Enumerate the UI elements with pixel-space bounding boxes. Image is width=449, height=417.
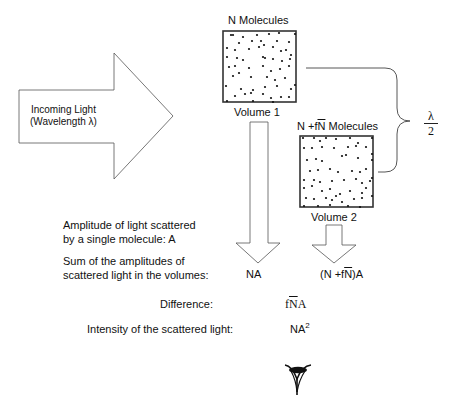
volume1-scatter-arrow	[236, 122, 280, 263]
molecule-dot	[369, 180, 371, 182]
volume2-sum-prefix: (N +f	[320, 268, 344, 280]
molecule-dot	[365, 146, 367, 148]
molecule-dot	[313, 198, 315, 200]
molecule-dot	[240, 88, 242, 90]
intensity-base: NA	[290, 323, 305, 335]
molecule-dot	[242, 59, 244, 61]
molecule-dot	[303, 187, 305, 189]
molecule-dot	[238, 72, 240, 74]
molecule-dot	[357, 157, 359, 159]
molecule-dot	[226, 47, 228, 49]
fraction-denominator: 2	[424, 125, 438, 137]
molecule-dot	[270, 97, 272, 99]
molecule-dot	[251, 40, 253, 42]
molecule-dot	[321, 160, 323, 162]
molecule-dot	[351, 170, 353, 172]
molecule-dot	[276, 85, 278, 87]
molecule-dot	[230, 34, 232, 36]
molecule-dot	[371, 195, 373, 197]
molecule-dot	[250, 76, 252, 78]
molecule-dot	[232, 75, 234, 77]
incoming-light-line2: (Wavelength λ)	[30, 116, 97, 128]
molecule-dot	[290, 54, 292, 56]
difference-suffix: A	[298, 297, 307, 311]
molecule-dot	[289, 58, 291, 60]
volume2-title-prefix: N +f	[297, 120, 317, 132]
molecule-dot	[290, 88, 292, 90]
molecule-dot	[279, 68, 281, 70]
sum-label: Sum of the amplitudes of scattered light…	[63, 254, 209, 282]
volume2-sum-value: (N +fN)A	[320, 268, 363, 281]
volume2-title: N +fN Molecules	[297, 120, 378, 133]
molecule-dot	[234, 65, 236, 67]
molecule-dot	[281, 60, 283, 62]
molecule-dot	[331, 180, 333, 182]
molecule-dot	[329, 204, 331, 206]
molecule-dot	[303, 179, 305, 181]
molecule-dot	[347, 205, 349, 207]
molecule-dot	[365, 187, 367, 189]
molecule-dot	[361, 192, 363, 194]
molecule-dot	[321, 190, 323, 192]
molecule-dot	[333, 147, 335, 149]
molecule-dot	[232, 34, 234, 36]
volume2-title-suffix: Molecules	[325, 120, 378, 132]
molecule-dot	[335, 138, 337, 140]
eye-icon	[285, 365, 311, 395]
molecule-dot	[335, 195, 337, 197]
difference-value: fNA	[285, 298, 306, 311]
molecule-dot	[349, 137, 351, 139]
molecule-dot	[319, 181, 321, 183]
molecule-dot	[371, 137, 373, 139]
volume1-title: N Molecules	[228, 14, 289, 27]
molecule-dot	[258, 46, 260, 48]
molecule-dot	[276, 40, 278, 42]
molecule-dot	[288, 41, 290, 43]
amplitude-line1: Amplitude of light scattered	[63, 218, 196, 232]
molecule-dot	[365, 168, 367, 170]
molecule-dot	[302, 137, 304, 139]
molecule-dot	[234, 49, 236, 51]
molecule-dot	[234, 95, 236, 97]
molecule-dot	[357, 142, 359, 144]
molecule-dot	[248, 48, 250, 50]
volume2-sum-suffix: )A	[352, 268, 363, 280]
intensity-exponent: 2	[305, 321, 309, 330]
molecule-dot	[272, 58, 274, 60]
molecule-dot	[303, 147, 305, 149]
molecule-dot	[347, 146, 349, 148]
molecule-dot	[260, 40, 262, 42]
molecule-dot	[288, 65, 290, 67]
molecule-dot	[321, 146, 323, 148]
molecule-dot	[294, 84, 296, 86]
molecule-dot	[272, 46, 274, 48]
molecule-dot	[341, 155, 343, 157]
molecule-dot	[262, 56, 264, 58]
molecule-dot	[353, 198, 355, 200]
molecule-dot	[262, 93, 264, 95]
molecule-dot	[268, 33, 270, 35]
sum-line2: scattered light in the volumes:	[63, 268, 209, 282]
molecule-dot	[228, 66, 230, 68]
difference-label: Difference:	[160, 298, 213, 311]
molecule-dot	[359, 206, 361, 208]
molecule-dot	[272, 101, 274, 103]
molecule-dot	[371, 159, 373, 161]
molecule-dot	[349, 190, 351, 192]
molecule-dot	[315, 158, 317, 160]
diagram-canvas	[0, 0, 449, 417]
fraction-numerator: λ	[424, 110, 438, 122]
molecule-dot	[288, 96, 290, 98]
volume2-label: Volume 2	[311, 211, 357, 224]
volume2-scatter-arrow	[312, 225, 356, 263]
molecule-dot	[361, 197, 363, 199]
molecule-dot	[294, 33, 296, 35]
molecule-dot	[339, 193, 341, 195]
molecule-dot	[270, 70, 272, 72]
molecule-dot	[278, 32, 280, 34]
molecule-dot	[262, 65, 264, 67]
molecule-dot	[343, 179, 345, 181]
incoming-light-label: Incoming Light (Wavelength λ)	[30, 104, 97, 128]
molecule-dot	[325, 197, 327, 199]
volume2-sum-overline: N	[344, 268, 352, 280]
